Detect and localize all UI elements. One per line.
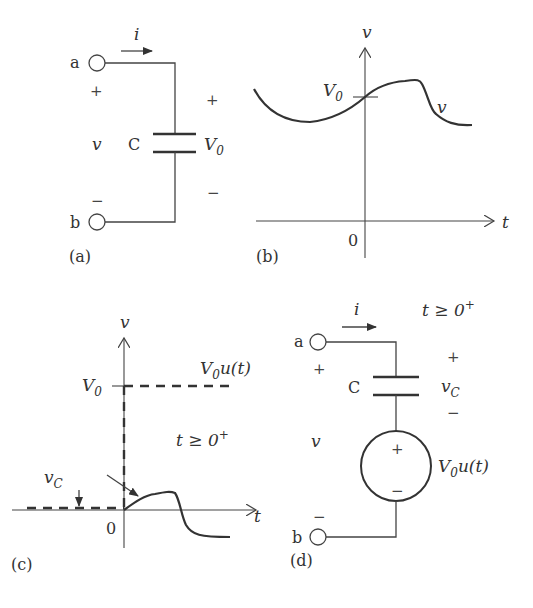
v0-label: V0: [204, 134, 224, 158]
plus-right: +: [206, 91, 219, 109]
origin-label: 0: [106, 519, 116, 538]
vc-curve: [124, 492, 230, 537]
x-axis-label: t: [502, 212, 509, 232]
panel-d-circuit: i t ≥ 0+ a + − b + v − C + vC − V0u(t) (…: [290, 298, 489, 570]
wire-bottom: [326, 501, 396, 537]
terminal-b-icon[interactable]: [310, 529, 326, 545]
vc-label: vC: [441, 376, 460, 400]
y-axis-label: v: [362, 22, 372, 42]
terminal-b-label: b: [70, 213, 80, 232]
terminal-b-label: b: [292, 528, 302, 547]
y-axis-label: v: [120, 312, 130, 332]
minus-left: −: [313, 508, 326, 526]
vc-minus: −: [447, 404, 460, 422]
minus-left: −: [91, 192, 104, 210]
source-minus: −: [391, 482, 404, 500]
terminal-a-icon[interactable]: [310, 334, 326, 350]
current-label: i: [134, 24, 139, 44]
v0-label: V0: [82, 375, 102, 399]
source-label: V0u(t): [438, 456, 489, 480]
wire-top: [105, 63, 175, 134]
curve-label: v: [437, 97, 447, 117]
terminal-a-label: a: [70, 53, 80, 72]
capacitor-label: C: [348, 378, 360, 397]
condition-label: t ≥ 0+: [176, 428, 229, 450]
current-label: i: [354, 299, 359, 319]
v0-label: V0: [323, 80, 343, 104]
condition-label: t ≥ 0+: [422, 298, 475, 320]
plus-left: +: [313, 360, 326, 378]
caption-c: (c): [11, 555, 32, 574]
vc-label: vC: [44, 467, 63, 491]
terminal-a-label: a: [294, 332, 304, 351]
wire-top: [326, 342, 396, 377]
caption-b: (b): [256, 247, 279, 266]
plus-left: +: [90, 82, 103, 100]
capacitor-label: C: [128, 135, 140, 154]
terminal-b-icon[interactable]: [89, 214, 105, 230]
minus-right: −: [207, 184, 220, 202]
origin-label: 0: [348, 231, 358, 250]
vc-plus: +: [447, 348, 460, 366]
vc-pointer-arrow-icon: [107, 475, 138, 496]
panel-c-graph: v t 0 V0 V0u(t) t ≥ 0+ vC (c): [11, 312, 261, 574]
voltage-v-label: v: [92, 134, 102, 154]
wire-bottom: [105, 152, 175, 222]
step-label: V0u(t): [200, 358, 251, 382]
caption-a: (a): [69, 247, 91, 266]
terminal-a-icon[interactable]: [89, 55, 105, 71]
voltage-v-label: v: [311, 431, 321, 451]
x-axis-label: t: [254, 506, 261, 526]
source-plus: +: [391, 440, 404, 458]
panel-b-graph: v t 0 V0 v (b): [254, 22, 509, 266]
panel-a-circuit: i a b + v − C + V0 − (a): [69, 24, 224, 266]
caption-d: (d): [290, 551, 313, 570]
